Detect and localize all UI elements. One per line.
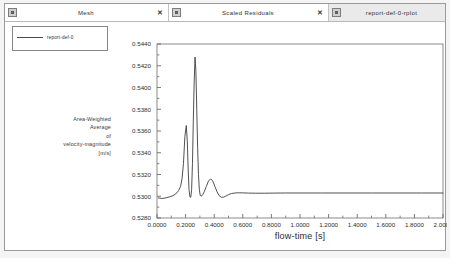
close-icon[interactable]: ✕ <box>155 9 165 16</box>
y-tick-label: 0.5340 <box>132 149 151 156</box>
line-chart: 0.52800.53000.53200.53400.53600.53800.54… <box>5 22 447 251</box>
y-tick-label: 0.5420 <box>132 62 151 69</box>
x-tick-label: 0.8000 <box>262 221 281 228</box>
tab-label: report-def-0-rplot <box>341 10 442 16</box>
window-icon <box>8 8 17 17</box>
y-tick-label: 0.5300 <box>132 193 151 200</box>
x-axis-title: flow-time [s] <box>157 231 443 241</box>
y-tick-label: 0.5320 <box>132 171 151 178</box>
fluent-plot-window: Mesh ✕ Scaled Residuals ✕ report-def-0-r… <box>0 0 450 258</box>
tab-bar: Mesh ✕ Scaled Residuals ✕ report-def-0-r… <box>5 4 445 22</box>
plot-area: report-def-0 Area-Weighted Average of ve… <box>5 22 445 250</box>
x-tick-label: 1.2000 <box>319 221 338 228</box>
tab-report-def-0-rplot[interactable]: report-def-0-rplot <box>329 4 445 21</box>
tab-label: Scaled Residuals <box>181 10 315 16</box>
data-series-line <box>158 57 443 198</box>
window-icon <box>172 8 181 17</box>
x-tick-label: 1.8000 <box>405 221 424 228</box>
x-tick-label: 0.0000 <box>148 221 167 228</box>
x-tick-label: 1.6000 <box>376 221 395 228</box>
x-tick-label: 0.4000 <box>205 221 224 228</box>
y-tick-label: 0.5360 <box>132 127 151 134</box>
window-icon <box>332 8 341 17</box>
y-tick-label: 0.5400 <box>132 84 151 91</box>
tab-label: Mesh <box>17 10 155 16</box>
y-tick-label: 0.5380 <box>132 106 151 113</box>
tab-mesh[interactable]: Mesh ✕ <box>5 4 169 21</box>
close-icon[interactable]: ✕ <box>315 9 325 16</box>
x-tick-label: 1.4000 <box>348 221 367 228</box>
x-tick-label: 0.6000 <box>233 221 252 228</box>
x-tick-label: 2.0000 <box>434 221 447 228</box>
y-tick-label: 0.5440 <box>132 40 151 47</box>
x-tick-label: 0.2000 <box>176 221 195 228</box>
x-tick-label: 1.0000 <box>291 221 310 228</box>
window-frame: Mesh ✕ Scaled Residuals ✕ report-def-0-r… <box>4 3 446 251</box>
tab-scaled-residuals[interactable]: Scaled Residuals ✕ <box>169 4 329 21</box>
